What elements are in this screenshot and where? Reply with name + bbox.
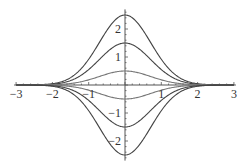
x-tick-label: 2 (195, 87, 201, 101)
y-tick-label: 2 (115, 22, 121, 36)
bell-curves-plot: −3−2−1123−2−112 (0, 0, 247, 165)
x-tick-label: 3 (231, 87, 237, 101)
y-tick-label: −1 (108, 106, 121, 120)
y-tick-label: −2 (108, 134, 121, 148)
x-tick-label: 1 (158, 87, 164, 101)
y-tick-label: 1 (115, 50, 121, 64)
x-tick-label: −3 (10, 87, 23, 101)
x-tick-label: −2 (46, 87, 59, 101)
x-tick-label: −1 (82, 87, 95, 101)
